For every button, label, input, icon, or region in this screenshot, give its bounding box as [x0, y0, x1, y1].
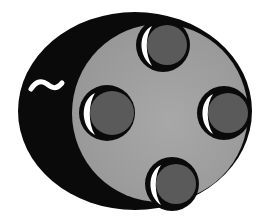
- hole-right: [197, 86, 251, 140]
- hole-left: [79, 85, 135, 141]
- hole-bottom: [145, 157, 199, 211]
- hole-top: [136, 18, 190, 72]
- round-object-illustration: [0, 0, 270, 224]
